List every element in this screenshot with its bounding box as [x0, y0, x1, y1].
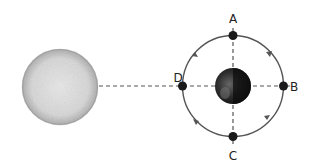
- earth-night-side: [233, 68, 251, 104]
- moon-phases-diagram: A B C D: [0, 0, 310, 168]
- moon-C: [229, 132, 238, 141]
- earth-continent: [220, 87, 230, 99]
- label-C: C: [229, 149, 237, 163]
- arrow-icon: [264, 115, 270, 120]
- sun: [22, 49, 98, 125]
- moon-A: [229, 31, 238, 40]
- label-D: D: [173, 71, 182, 85]
- label-B: B: [290, 80, 298, 94]
- arrow-icon: [266, 51, 272, 57]
- moon-B: [279, 82, 288, 91]
- earth: [215, 68, 251, 104]
- label-A: A: [229, 12, 238, 26]
